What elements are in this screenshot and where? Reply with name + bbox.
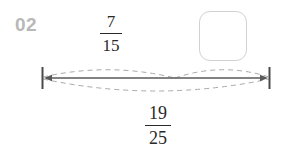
answer-box[interactable] <box>199 11 247 61</box>
part-dashed-arc-right <box>175 70 269 78</box>
problem-canvas: 02 7 15 19 25 <box>0 0 282 149</box>
part-dashed-arc-left <box>43 70 175 78</box>
part-fraction-denominator: 15 <box>103 36 120 54</box>
whole-fraction-numerator: 19 <box>149 104 167 123</box>
part-fraction-bar <box>100 33 122 34</box>
part-fraction-numerator: 7 <box>107 13 116 31</box>
whole-fraction-label: 19 25 <box>145 104 171 147</box>
left-arrowhead <box>44 75 52 81</box>
part-fraction-label: 7 15 <box>100 13 122 54</box>
whole-fraction-denominator: 25 <box>149 128 167 147</box>
whole-dashed-arc <box>43 79 269 91</box>
whole-fraction-bar <box>145 125 171 126</box>
